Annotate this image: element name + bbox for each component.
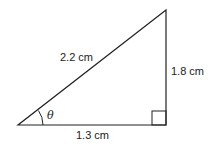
triangle (18, 10, 166, 125)
angle-arc (39, 111, 44, 125)
hypotenuse-label: 2.2 cm (60, 51, 93, 63)
opposite-side-label: 1.8 cm (171, 65, 204, 77)
adjacent-side-label: 1.3 cm (76, 129, 109, 141)
triangle-diagram: θ 2.2 cm 1.8 cm 1.3 cm (0, 0, 214, 150)
right-angle-marker (152, 111, 166, 125)
angle-theta-label: θ (47, 109, 54, 122)
